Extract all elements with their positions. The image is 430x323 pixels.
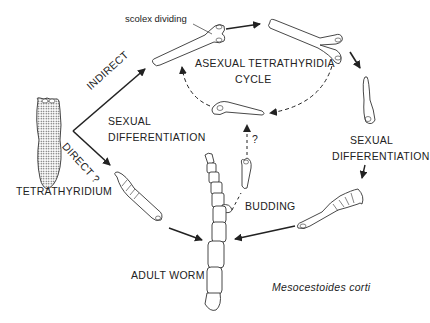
segmented-worm-left — [115, 172, 162, 221]
arrow-sexual-diff-right — [362, 165, 365, 178]
cycle-arrow-dashed-right — [270, 66, 332, 113]
cycle-arrow-dashed-left — [182, 67, 210, 106]
cycle-arrow-top — [226, 24, 260, 29]
label-sexual-diff-left-line2: DIFFERENTIATION — [108, 131, 206, 143]
segmented-worm-right — [298, 189, 363, 229]
single-larva-right — [363, 77, 375, 124]
label-sexual-diff-left-line1: SEXUAL — [108, 115, 151, 127]
label-asexual-cycle-line1: ASEXUAL TETRATHYRIDIA — [195, 57, 335, 69]
label-sexual-diff-right-line2: DIFFERENTIATION — [332, 150, 430, 162]
tetrathyridium-illustration — [37, 98, 61, 189]
label-budding-question: ? — [252, 133, 258, 145]
label-asexual-cycle-line2: CYCLE — [235, 73, 272, 85]
label-tetrathyridium: TETRATHYRIDIUM — [16, 185, 112, 197]
arrow-to-single-larva — [350, 52, 360, 68]
label-sexual-diff-right-line1: SEXUAL — [350, 134, 393, 146]
cycle-bottom-larva — [212, 102, 264, 116]
label-adult-worm: ADULT WORM — [131, 269, 205, 281]
label-budding: BUDDING — [245, 200, 296, 212]
adult-worm-illustration — [205, 153, 232, 310]
budding-dashed-link — [232, 193, 241, 210]
arrow-right-worm-to-adult — [235, 226, 295, 239]
budding-larva — [241, 158, 251, 189]
arrow-left-worm-to-adult — [169, 228, 202, 240]
diagram-title: Mesocestoides corti — [272, 281, 371, 293]
label-scolex-dividing: scolex dividing — [125, 13, 187, 24]
